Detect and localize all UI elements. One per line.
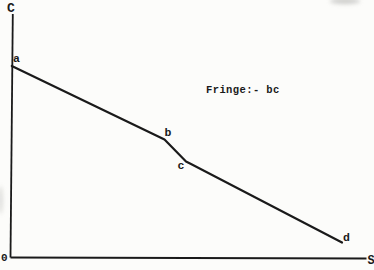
point-label-b: b (165, 126, 172, 139)
point-label-d: d (343, 231, 350, 244)
point-label-c: c (178, 159, 185, 172)
y-axis-label: C (7, 1, 15, 16)
x-axis-label: S (368, 254, 374, 268)
annotation-fringe: Fringe:- bc (206, 84, 280, 96)
point-label-a: a (13, 52, 20, 65)
origin-label: 0 (1, 252, 8, 264)
calibration-graph: C S 0 Fringe:- bc a b c d (0, 0, 374, 270)
figure-canvas: C S 0 Fringe:- bc a b c d (0, 0, 374, 270)
x-axis (11, 258, 367, 259)
curve-abcd (12, 66, 342, 243)
